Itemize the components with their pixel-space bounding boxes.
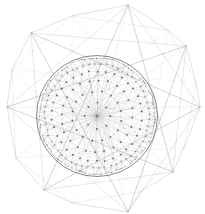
mesh-edge	[45, 111, 52, 119]
mesh-node	[116, 163, 117, 164]
mesh-node	[139, 128, 141, 130]
mesh-node	[84, 115, 86, 117]
mesh-edge	[67, 141, 71, 150]
mesh-node	[106, 64, 107, 65]
mesh-node	[143, 91, 144, 92]
rim-mesh-edge	[150, 137, 152, 141]
mesh-node	[46, 145, 47, 146]
mesh-node	[97, 71, 99, 73]
mesh-node	[113, 146, 115, 148]
star-edge	[31, 16, 72, 33]
mesh-edge	[138, 87, 140, 97]
mesh-node	[77, 68, 78, 69]
star-edge	[7, 70, 12, 107]
mesh-edge	[108, 81, 117, 86]
mesh-node	[73, 77, 75, 79]
rim-mesh-edge	[149, 114, 150, 119]
rim-mesh-edge	[147, 102, 153, 104]
mesh-node	[147, 126, 148, 127]
star-chord-secondary	[31, 33, 44, 190]
star-edge	[184, 107, 200, 148]
star-edge	[72, 203, 128, 212]
rim-mesh-edge	[118, 64, 123, 69]
mesh-node	[88, 106, 90, 108]
mesh-node	[67, 72, 68, 73]
rim-mesh-edge	[44, 90, 46, 94]
mesh-node	[120, 110, 122, 112]
inner-polygon-edge	[72, 16, 168, 30]
mesh-node	[77, 146, 79, 148]
mesh-edge	[59, 142, 62, 150]
mesh-node	[92, 140, 94, 142]
rim-mesh-edge	[73, 60, 78, 62]
mesh-node	[61, 123, 63, 125]
geometric-figure-svg	[0, 0, 205, 214]
mesh-node	[110, 95, 112, 97]
rim-mesh-edge	[56, 73, 59, 75]
mesh-node	[73, 70, 74, 71]
mesh-node	[72, 154, 74, 156]
mesh-node	[140, 86, 141, 87]
mesh-node	[103, 150, 105, 152]
mesh-edge	[95, 151, 104, 152]
mesh-node	[126, 134, 128, 136]
mesh-node	[153, 125, 154, 126]
rim-mesh-edge	[76, 170, 80, 171]
rim-mesh-edge	[46, 124, 48, 130]
mesh-edge	[140, 126, 148, 129]
mesh-node	[122, 71, 123, 72]
mesh-node	[88, 71, 90, 73]
rim-mesh-edge	[107, 59, 108, 64]
mesh-node	[139, 103, 141, 105]
rim-mesh-edge	[134, 72, 137, 74]
mesh-node	[127, 83, 129, 85]
mesh-node	[111, 165, 112, 166]
rim-mesh-edge	[137, 153, 141, 157]
rim-mesh-edge	[56, 75, 63, 76]
star-edge	[12, 33, 31, 70]
rim-mesh-edge	[126, 159, 131, 164]
mesh-edge	[63, 106, 72, 112]
mesh-node	[61, 88, 63, 90]
mesh-node	[66, 96, 68, 98]
rim-mesh-edge	[40, 109, 44, 112]
mesh-node	[60, 142, 62, 144]
mesh-node	[56, 95, 58, 97]
rim-mesh-edge	[148, 119, 149, 126]
mesh-node	[44, 118, 45, 119]
mesh-node	[39, 127, 40, 128]
mesh-node	[47, 100, 48, 101]
rim-mesh-edge	[150, 114, 155, 116]
mesh-node	[76, 164, 77, 165]
mesh-edge	[80, 158, 88, 160]
mesh-node	[120, 154, 122, 156]
mesh-node	[51, 141, 52, 142]
mesh-edge	[121, 111, 133, 117]
mesh-node	[65, 158, 66, 159]
mesh-edge	[111, 158, 113, 165]
inner-polygon-chord	[140, 30, 168, 192]
rim-mesh-edge	[44, 135, 48, 141]
rim-mesh-edge	[44, 94, 49, 95]
rim-mesh-edge	[67, 64, 71, 67]
mesh-node	[87, 160, 89, 162]
mesh-node	[131, 77, 132, 78]
mesh-node	[94, 64, 95, 65]
mesh-edge	[66, 73, 67, 82]
rim-mesh-edge	[143, 141, 147, 144]
mesh-node	[120, 120, 122, 122]
figure-container: Octagram star polygon enclosing triangul…	[0, 0, 205, 214]
mesh-edge	[72, 116, 84, 121]
mesh-node	[97, 102, 99, 104]
star-edge	[186, 46, 196, 82]
mesh-edge	[132, 111, 141, 117]
inner-polygon-edge	[16, 158, 72, 203]
mesh-node	[57, 135, 59, 137]
mesh-node	[135, 159, 136, 160]
mesh-node	[146, 130, 147, 131]
mesh-node	[72, 120, 74, 122]
mesh-edge	[93, 161, 97, 168]
rim-mesh-edge	[47, 141, 52, 145]
rim-mesh-edge	[83, 59, 85, 66]
star-chord	[7, 107, 173, 172]
